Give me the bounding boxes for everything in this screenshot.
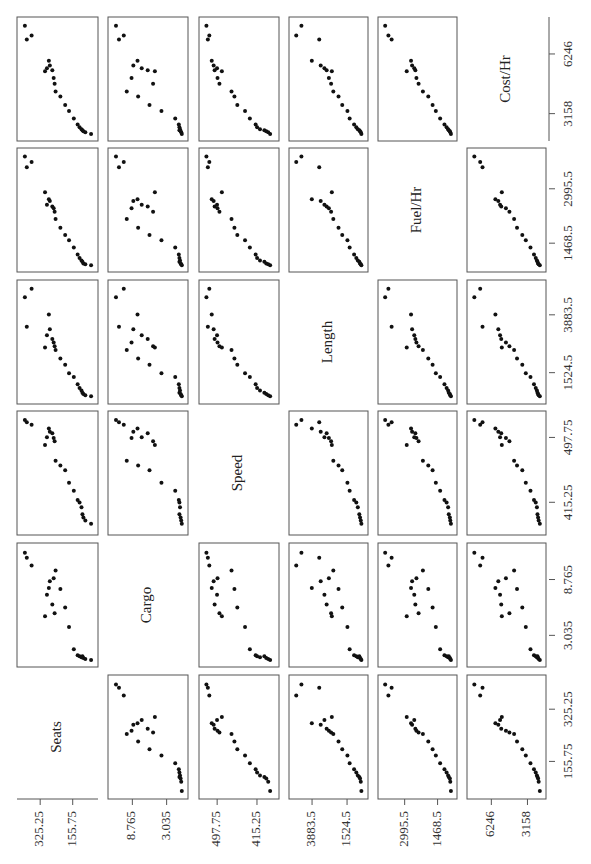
data-point <box>230 732 234 736</box>
right-axis-tick-label: 6246 <box>560 40 575 67</box>
data-point <box>212 579 216 583</box>
bottom-axis-tick-label: 8.765 <box>123 811 138 840</box>
data-point <box>294 423 298 427</box>
data-point <box>319 63 323 67</box>
data-point <box>538 658 542 662</box>
data-point <box>146 727 150 731</box>
data-point <box>310 586 314 590</box>
data-point <box>207 564 211 568</box>
panel-costhr-vs-seats <box>467 675 546 799</box>
data-point <box>528 245 532 249</box>
data-point <box>426 94 430 98</box>
data-point <box>426 464 430 468</box>
data-point <box>136 59 140 63</box>
data-point <box>386 423 390 427</box>
data-point <box>337 464 341 468</box>
data-point <box>43 190 47 194</box>
data-point <box>89 658 93 662</box>
data-point <box>299 24 303 28</box>
data-point <box>30 287 34 291</box>
data-point <box>434 625 438 629</box>
data-point <box>67 481 71 485</box>
panel-cargo-vs-length <box>108 280 188 404</box>
data-point <box>140 718 144 722</box>
data-point <box>58 94 62 98</box>
data-point <box>421 90 425 94</box>
data-point <box>446 505 450 509</box>
data-point <box>235 605 239 609</box>
data-point <box>173 117 177 121</box>
data-point <box>207 693 211 697</box>
data-point <box>421 459 425 463</box>
data-point <box>499 727 503 731</box>
data-point <box>125 217 129 221</box>
data-point <box>47 586 51 590</box>
data-point <box>58 464 62 468</box>
data-point <box>431 103 435 107</box>
data-point <box>478 287 482 291</box>
data-point <box>43 69 47 73</box>
data-point <box>248 647 252 651</box>
data-point <box>449 789 453 793</box>
data-point <box>50 68 54 72</box>
data-point <box>478 564 482 568</box>
data-point <box>43 614 47 618</box>
right-axis-tick-label: 3.035 <box>560 621 575 650</box>
data-point <box>504 206 508 210</box>
data-point <box>449 522 453 526</box>
data-point <box>337 94 341 98</box>
data-point <box>386 693 390 697</box>
data-point <box>266 780 270 784</box>
data-point <box>130 76 134 80</box>
panel-seats-vs-fuelhr <box>17 148 98 272</box>
data-point <box>478 160 482 164</box>
data-point <box>258 655 262 659</box>
data-point <box>412 718 416 722</box>
data-point <box>504 729 508 733</box>
data-point <box>383 551 387 555</box>
data-point <box>340 103 344 107</box>
data-point <box>331 217 335 221</box>
data-point <box>58 587 62 591</box>
data-point <box>431 363 435 367</box>
data-point <box>117 420 121 424</box>
right-axis-tick-label: 3158 <box>560 101 575 127</box>
data-point <box>507 611 511 615</box>
data-point <box>178 505 182 509</box>
data-point <box>248 117 252 121</box>
data-point <box>30 423 34 427</box>
data-point <box>83 130 87 134</box>
data-point <box>438 761 442 765</box>
data-point <box>206 686 210 690</box>
data-point <box>322 593 326 597</box>
data-point <box>45 333 49 337</box>
data-point <box>317 165 321 169</box>
data-point <box>520 605 524 609</box>
data-point <box>159 371 163 375</box>
diagonal-label-speed: Speed <box>229 454 245 491</box>
data-point <box>414 341 418 345</box>
data-point <box>140 333 144 337</box>
data-point <box>310 59 314 63</box>
data-point <box>179 780 183 784</box>
right-axis-tick-label: 1524.5 <box>560 355 575 391</box>
data-point <box>345 625 349 629</box>
data-point <box>215 593 219 597</box>
data-point <box>390 325 394 329</box>
bottom-axis-tick-label: 1468.5 <box>429 811 444 847</box>
data-point <box>53 344 57 348</box>
data-point <box>325 603 329 607</box>
data-point <box>330 443 334 447</box>
data-point <box>472 155 476 159</box>
data-point <box>63 363 67 367</box>
data-point <box>146 431 150 435</box>
data-point <box>230 348 234 352</box>
data-point <box>136 464 140 468</box>
data-point <box>83 657 87 661</box>
bottom-axis-tick-label: 3883.5 <box>303 811 318 847</box>
data-point <box>409 59 413 63</box>
data-point <box>268 394 272 398</box>
data-point <box>89 522 93 526</box>
data-point <box>78 500 82 504</box>
data-point <box>53 611 57 615</box>
